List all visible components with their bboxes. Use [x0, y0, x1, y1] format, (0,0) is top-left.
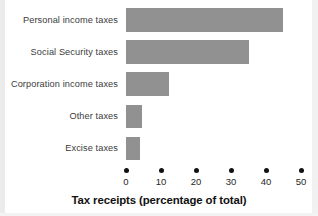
x-tick-label-40: 40: [254, 176, 278, 187]
x-tick-dot-40: [264, 168, 269, 173]
bar-other-taxes: [126, 105, 142, 128]
category-label-other-taxes: Other taxes: [0, 111, 118, 121]
x-tick-label-20: 20: [184, 176, 208, 187]
x-tick-label-0: 0: [114, 176, 138, 187]
category-label-social-security-taxes: Social Security taxes: [0, 47, 118, 57]
bar-chart-figure: Personal income taxes Social Security ta…: [0, 0, 318, 216]
plot-area: Personal income taxes Social Security ta…: [0, 0, 318, 216]
x-tick-label-50: 50: [289, 176, 313, 187]
x-tick-dot-50: [299, 168, 304, 173]
bar-personal-income-taxes: [126, 8, 283, 32]
x-tick-label-10: 10: [149, 176, 173, 187]
bar-excise-taxes: [126, 137, 140, 160]
x-tick-label-30: 30: [219, 176, 243, 187]
x-tick-dot-10: [159, 168, 164, 173]
x-tick-dot-20: [194, 168, 199, 173]
category-label-corporation-income-taxes: Corporation income taxes: [0, 79, 118, 89]
x-tick-dot-0: [124, 168, 129, 173]
category-label-excise-taxes: Excise taxes: [0, 143, 118, 153]
x-axis-title: Tax receipts (percentage of total): [0, 194, 318, 206]
bar-corporation-income-taxes: [126, 72, 169, 96]
x-tick-dot-30: [229, 168, 234, 173]
bar-social-security-taxes: [126, 40, 249, 64]
category-label-personal-income-taxes: Personal income taxes: [0, 15, 118, 25]
